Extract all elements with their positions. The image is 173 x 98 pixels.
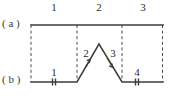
figure-container: ( a ) ( b ) 1 2 3 1 2 3 4: [0, 0, 173, 98]
bottom-segment-label-3: 3: [107, 47, 119, 59]
bottom-segment-label-1: 1: [47, 66, 61, 78]
arrow-mark-segment-3: [108, 59, 114, 68]
panel-label-b: ( b ): [2, 73, 20, 85]
bottom-segment-label-4: 4: [130, 66, 144, 78]
top-segment-label-1: 1: [47, 1, 61, 13]
panel-label-a: ( a ): [2, 17, 20, 29]
top-segment-label-3: 3: [136, 1, 150, 13]
arrow-mark-segment-2: [86, 59, 91, 68]
bottom-segment-label-2: 2: [80, 47, 92, 59]
top-segment-label-2: 2: [92, 1, 106, 13]
